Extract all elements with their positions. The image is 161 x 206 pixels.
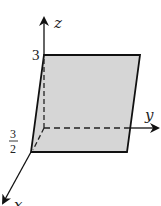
x-axis-label: x	[14, 196, 23, 206]
diagram-canvas: z y x 3 3 2	[0, 0, 161, 206]
z-tick-3: 3	[32, 47, 40, 63]
shaded-plane	[31, 55, 140, 152]
y-axis-label: y	[144, 106, 154, 124]
x-tick-denominator: 2	[10, 142, 16, 156]
x-tick-numerator: 3	[10, 127, 16, 141]
z-axis-label: z	[53, 14, 62, 32]
